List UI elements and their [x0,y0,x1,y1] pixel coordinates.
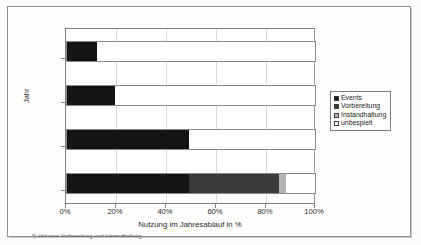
bar-segment-events-2007 [66,129,189,150]
x-tick-label-40: 40% [148,207,182,216]
legend-item-vorbereitung: Vorbereitung [334,103,386,110]
plot-area [65,28,315,204]
legend: Events Vorbereitung Instandhaltung unbes… [330,91,391,131]
bar-segment-unbespielt-2007-star [286,173,316,194]
x-tick-label-100: 100% [297,207,331,216]
footnote: *) inklusive Vorbereitung und Instandhal… [32,233,142,239]
bar-segment-unbespielt-2007 [189,129,317,150]
bar-2007-star [66,173,316,194]
x-tick-label-80: 80% [248,207,282,216]
bar-2007 [66,129,316,150]
y-axis-title: Jahr [22,89,31,103]
bar-segment-unbespielt-1979 [97,41,316,62]
legend-label-events: Events [341,95,362,102]
chart-page: Jahr 1979 1990 2007 2007 *) [0,0,421,245]
legend-label-unbespielt: unbespielt [341,120,372,127]
bar-segment-unbespielt-1990 [115,85,316,106]
bar-segment-events-1979 [66,41,97,62]
bar-segment-events-2007-star [66,173,189,194]
bar-segment-instandhaltung-2007-star [279,173,287,194]
x-tick-label-60: 60% [198,207,232,216]
bar-segment-events-1990 [66,85,115,106]
legend-label-vorbereitung: Vorbereitung [341,103,380,110]
bar-1979 [66,41,316,62]
x-tick-label-0: 0% [48,207,82,216]
legend-swatch-events-icon [334,96,339,101]
legend-swatch-unbespielt-icon [334,121,339,126]
legend-swatch-vorbereitung-icon [334,104,339,109]
bar-1990 [66,85,316,106]
legend-item-unbespielt: unbespielt [334,120,386,127]
legend-item-instandhaltung: Instandhaltung [334,112,386,119]
figure-frame: Jahr 1979 1990 2007 2007 *) [7,6,411,237]
legend-swatch-instandhaltung-icon [334,113,339,118]
x-axis-title: Nutzung im Jahresablauf in % [65,220,315,229]
bar-segment-vorbereitung-2007-star [189,173,279,194]
legend-item-events: Events [334,95,386,102]
legend-label-instandhaltung: Instandhaltung [341,112,386,119]
x-tick-label-20: 20% [98,207,132,216]
